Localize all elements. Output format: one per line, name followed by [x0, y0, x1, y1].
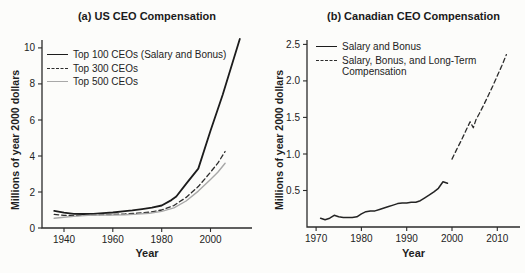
svg-text:2.0: 2.0	[286, 75, 300, 86]
dashed-line-swatch-icon	[316, 60, 337, 61]
legend-label-salary-bonus: Salary and Bonus	[342, 41, 421, 53]
legend-label-salary-bonus-longterm: Salary, Bonus, and Long-Term Compensatio…	[342, 55, 476, 78]
svg-text:1990: 1990	[396, 233, 419, 244]
legend-item-top-100: Top 100 CEOs (Salary and Bonus)	[47, 49, 226, 61]
gray-line-swatch-icon	[47, 81, 68, 82]
legend-item-top-300: Top 300 CEOs	[47, 63, 226, 75]
us-x-axis-label: Year	[42, 247, 252, 259]
canada-legend: Salary and Bonus Salary, Bonus, and Long…	[316, 41, 476, 80]
solid-black-line-swatch-icon	[316, 46, 337, 47]
dashed-line-swatch-icon	[47, 68, 68, 69]
legend-item-salary-bonus: Salary and Bonus	[316, 41, 476, 53]
svg-text:2.5: 2.5	[286, 39, 300, 50]
svg-text:2000: 2000	[441, 233, 464, 244]
svg-text:1.0: 1.0	[286, 149, 300, 160]
svg-text:2010: 2010	[486, 233, 509, 244]
svg-text:1980: 1980	[350, 233, 373, 244]
legend-label-top-500: Top 500 CEOs	[73, 76, 138, 88]
us-legend: Top 100 CEOs (Salary and Bonus) Top 300 …	[47, 49, 226, 90]
svg-text:0.5: 0.5	[286, 185, 300, 196]
svg-text:1970: 1970	[305, 233, 328, 244]
figure-ceo-compensation: 02468101940196019802000 0.51.01.52.02.51…	[0, 0, 525, 273]
canada-x-axis-label: Year	[307, 247, 520, 259]
legend-item-top-500: Top 500 CEOs	[47, 76, 226, 88]
legend-item-salary-bonus-longterm: Salary, Bonus, and Long-Term Compensatio…	[316, 55, 476, 78]
canada-y-axis-label: Millions of year 2000 dollars	[273, 70, 285, 210]
svg-text:1.5: 1.5	[286, 112, 300, 123]
legend-label-line-2: Compensation	[342, 66, 476, 78]
legend-label-top-300: Top 300 CEOs	[73, 63, 138, 75]
solid-black-line-swatch-icon	[47, 54, 68, 55]
legend-label-top-100: Top 100 CEOs (Salary and Bonus)	[73, 49, 226, 61]
canada-chart-title: (b) Canadian CEO Compensation	[307, 10, 520, 24]
us-chart-title: (a) US CEO Compensation	[42, 10, 252, 24]
us-y-axis-label: Millions of year 2000 dollars	[9, 70, 21, 210]
legend-label-line-1: Salary, Bonus, and Long-Term	[342, 55, 476, 67]
